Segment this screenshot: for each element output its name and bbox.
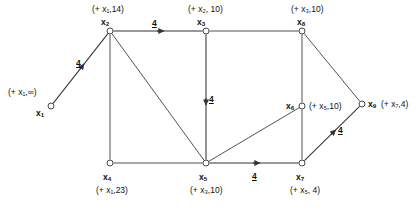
node-name-x7: x7 bbox=[296, 173, 304, 182]
node-label-x7: (+ x₅, 4) bbox=[290, 186, 320, 195]
node-label-x1: (+ x₁,∞) bbox=[8, 88, 37, 97]
node-x9[interactable] bbox=[359, 101, 365, 107]
arrowhead-x7-x9 bbox=[331, 130, 336, 135]
node-name-x6: x6 bbox=[286, 102, 294, 111]
node-name-x5: x5 bbox=[199, 173, 207, 182]
node-x8[interactable] bbox=[299, 28, 305, 34]
node-x2[interactable] bbox=[107, 28, 113, 34]
edge-x5-x6 bbox=[209, 108, 299, 162]
node-name-x3: x3 bbox=[197, 18, 205, 27]
node-name-x9: x9 bbox=[368, 100, 376, 109]
node-name-x8: x8 bbox=[297, 18, 305, 27]
node-label-x4: (+ x₁,23) bbox=[96, 186, 128, 195]
node-label-x9: (+ x₇,4) bbox=[381, 100, 408, 109]
edge-weight-x7-x9: 4 bbox=[338, 126, 343, 135]
node-name-x2: x2 bbox=[101, 18, 109, 27]
node-label-x5: (+ x₃,10) bbox=[190, 186, 223, 195]
edge-weight-x1-x2: 4 bbox=[76, 59, 81, 68]
edge-x8-x9 bbox=[304, 34, 360, 102]
node-x3[interactable] bbox=[203, 28, 209, 34]
node-name-x1: x1 bbox=[36, 109, 44, 118]
edge-weight-x3-x5: 4 bbox=[209, 95, 214, 104]
node-x6[interactable] bbox=[299, 103, 305, 109]
node-x5[interactable] bbox=[203, 160, 209, 166]
node-x1[interactable] bbox=[48, 103, 54, 109]
node-label-x3: (+ x₂, 10) bbox=[188, 5, 223, 14]
node-label-x2: (+ x₁,14) bbox=[92, 5, 124, 14]
node-label-x8: (+ x₃,10) bbox=[291, 5, 324, 14]
edge-layer bbox=[53, 31, 360, 163]
edge-x2-x5 bbox=[112, 34, 204, 161]
figure-canvas: 44444x1(+ x₁,∞)x2(+ x₁,14)x3(+ x₂, 10)x8… bbox=[0, 0, 420, 218]
node-x7[interactable] bbox=[299, 160, 305, 166]
edge-weight-x2-x3: 4 bbox=[152, 19, 157, 28]
node-name-x4: x4 bbox=[103, 173, 111, 182]
edge-weight-x5-x7: 4 bbox=[252, 172, 257, 181]
node-label-x6: (+ x₅,10) bbox=[309, 102, 341, 111]
node-x4[interactable] bbox=[107, 160, 113, 166]
